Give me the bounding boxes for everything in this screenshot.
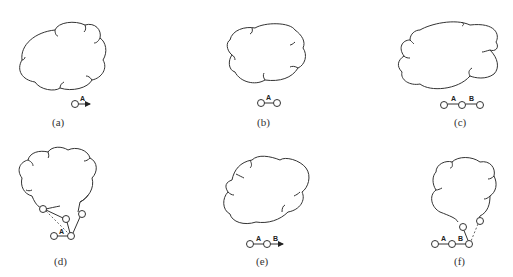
edge-label-a: A — [80, 95, 85, 102]
edge-label-b: B — [458, 235, 463, 242]
caption-f: (f) — [454, 255, 465, 267]
edge-label-b: B — [273, 235, 278, 242]
panel-a: A — [20, 22, 106, 107]
edge-label-a: A — [451, 95, 456, 102]
node — [466, 241, 473, 248]
node — [63, 216, 70, 223]
node — [247, 241, 254, 248]
edge-label-a: A — [441, 235, 446, 242]
node — [79, 211, 86, 218]
cloud-a — [20, 22, 106, 90]
panel-c: A B — [398, 22, 497, 109]
diagram-canvas: A A A B — [0, 0, 513, 277]
cloud-e — [224, 156, 309, 223]
node — [459, 102, 466, 109]
node — [68, 233, 75, 240]
caption-c: (c) — [454, 116, 466, 128]
node — [477, 102, 484, 109]
node — [441, 102, 448, 109]
panel-b: A — [227, 24, 305, 107]
node — [72, 101, 79, 108]
cloud-c — [398, 22, 497, 89]
node — [432, 241, 439, 248]
cloud-b — [227, 24, 305, 83]
node — [40, 206, 47, 213]
edge-label-a: A — [256, 235, 261, 242]
caption-d: (d) — [54, 255, 67, 267]
node — [264, 241, 271, 248]
caption-a: (a) — [52, 116, 64, 128]
node — [460, 224, 467, 231]
node — [258, 100, 265, 107]
panel-f: A B — [432, 158, 497, 248]
edge-label-a: A — [59, 228, 64, 235]
caption-e: (e) — [256, 255, 268, 267]
cloud-f — [432, 158, 496, 223]
edge-label-a: A — [266, 94, 271, 101]
node — [477, 218, 484, 225]
node — [51, 233, 58, 240]
node — [449, 241, 456, 248]
caption-b: (b) — [257, 116, 270, 128]
edge-label-b: B — [469, 95, 474, 102]
cloud-d — [19, 147, 96, 212]
panel-e: A B — [224, 156, 309, 247]
panel-d: A — [19, 147, 96, 239]
node — [274, 100, 281, 107]
